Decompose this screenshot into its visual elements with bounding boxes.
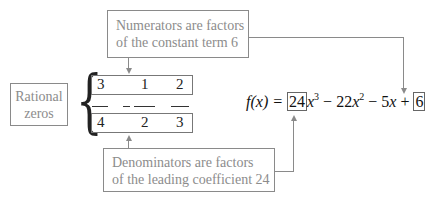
op2: − 5	[364, 93, 389, 110]
constant-term-box: 6	[413, 92, 425, 111]
numerators-callout-line1: Numerators are factors	[116, 17, 248, 34]
numerators-callout: Numerators are factors of the constant t…	[107, 10, 249, 58]
rational-zeros-label: Rational zeros	[10, 83, 68, 126]
connector-denominators-to-coefficient-h	[275, 171, 294, 172]
denominators-callout-line1: Denominators are factors	[112, 154, 274, 171]
connector-numerators-to-constant-h	[249, 37, 404, 38]
numerator-2: 1	[141, 76, 149, 93]
leading-coefficient-box: 24	[287, 92, 307, 111]
op3: +	[396, 93, 413, 110]
fraction-bar-1	[92, 106, 108, 107]
connector-numerators-to-constant-v	[403, 37, 404, 89]
arrow-to-numerators-icon	[126, 68, 132, 74]
denominators-callout-line2: of the leading coefficient 24	[112, 171, 274, 188]
denominator-2: 2	[141, 114, 149, 131]
numerators-box: 3 1 2	[91, 75, 193, 95]
arrow-to-coefficient-icon	[291, 115, 297, 121]
rational-zeros-line1: Rational	[11, 88, 67, 105]
fraction-bar-3	[171, 106, 189, 107]
numerators-callout-line2: of the constant term 6	[116, 34, 248, 51]
polynomial-equation: f(x) = 24x3 − 22x2 − 5x + 6	[246, 93, 425, 111]
minus-sign	[123, 106, 130, 107]
fraction-bar-2	[134, 106, 155, 107]
denominators-box: 4 2 3	[91, 113, 193, 133]
denominators-callout: Denominators are factors of the leading …	[103, 148, 275, 192]
equation-lhs: f(x) =	[246, 93, 287, 110]
numerator-3: 2	[176, 76, 184, 93]
op1: − 22	[319, 93, 352, 110]
denominator-3: 3	[176, 114, 184, 131]
numerator-1: 3	[97, 76, 105, 93]
connector-denominators-to-coefficient-v	[293, 120, 294, 172]
rational-zeros-line2: zeros	[11, 105, 67, 122]
denominator-1: 4	[97, 114, 105, 131]
